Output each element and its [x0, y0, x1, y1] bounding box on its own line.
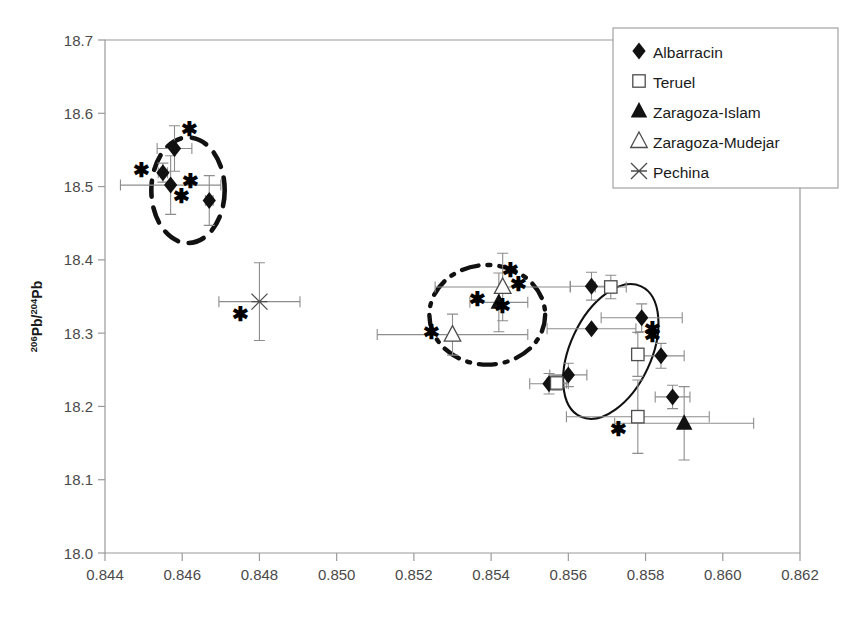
- x-tick-label: 0.850: [318, 566, 356, 583]
- legend: AlbarracinTeruelZaragoza-IslamZaragoza-M…: [613, 28, 838, 188]
- ylabel-sup-206: 206: [28, 336, 39, 352]
- y-tick-label: 18.7: [64, 32, 93, 49]
- marker-filled-diamond: [585, 320, 598, 337]
- star-annotation: ✱: [494, 295, 511, 317]
- marker-open-square: [633, 75, 645, 87]
- ylabel-sup-204: 204: [28, 298, 39, 315]
- legend-item-label: Zaragoza-Islam: [653, 104, 761, 121]
- marker-open-triangle: [444, 326, 461, 341]
- star-annotation: ✱: [133, 159, 150, 181]
- y-tick-label: 18.2: [64, 398, 93, 415]
- data-marker-layer: [156, 140, 692, 430]
- marker-open-square: [551, 377, 563, 389]
- cluster-ellipse-zaragoza-group: [429, 265, 545, 365]
- y-tick-label: 18.4: [64, 251, 93, 268]
- legend-item-label: Albarracin: [653, 44, 723, 61]
- star-annotation: ✱: [610, 418, 627, 440]
- marker-open-square: [632, 410, 644, 422]
- x-tick-label: 0.858: [627, 566, 665, 583]
- x-tick-label: 0.860: [704, 566, 742, 583]
- marker-filled-diamond: [203, 192, 216, 209]
- star-annotation: ✱: [182, 170, 199, 192]
- star-annotation: ✱: [423, 321, 440, 343]
- x-tick-label: 0.846: [163, 566, 201, 583]
- y-axis-title-text: 206Pb/204Pb: [28, 281, 46, 352]
- marker-filled-diamond: [654, 347, 667, 364]
- marker-filled-diamond: [666, 388, 679, 405]
- plot-canvas: 18.018.118.218.318.418.518.618.70.8440.8…: [0, 0, 854, 623]
- y-axis-title-group: 206Pb/204Pb: [28, 281, 46, 352]
- star-annotation: ✱: [502, 259, 519, 281]
- x-tick-label: 0.862: [781, 566, 819, 583]
- y-tick-label: 18.1: [64, 471, 93, 488]
- marker-open-square: [605, 281, 617, 293]
- ylabel-mid: Pb/: [29, 314, 45, 336]
- marker-filled-diamond: [156, 164, 169, 181]
- x-tick-label: 0.848: [241, 566, 279, 583]
- star-annotation: ✱: [181, 118, 198, 140]
- y-tick-label: 18.6: [64, 105, 93, 122]
- legend-item-label: Teruel: [653, 74, 695, 91]
- x-tick-label: 0.854: [472, 566, 510, 583]
- scatter-plot-figure: 18.018.118.218.318.418.518.618.70.8440.8…: [0, 0, 854, 623]
- y-tick-label: 18.5: [64, 178, 93, 195]
- y-tick-label: 18.0: [64, 545, 93, 562]
- cluster-ellipse-layer: [151, 137, 678, 433]
- legend-item-zaragoza-mudejar[interactable]: Zaragoza-Mudejar: [631, 132, 780, 151]
- x-tick-label: 0.852: [395, 566, 433, 583]
- y-axis-title: 206Pb/204Pb: [28, 281, 46, 352]
- ylabel-tail: Pb: [29, 281, 45, 299]
- star-annotation: ✱: [469, 288, 486, 310]
- y-tick-label: 18.3: [64, 325, 93, 342]
- legend-item-label: Zaragoza-Mudejar: [653, 134, 780, 151]
- marker-filled-diamond: [585, 278, 598, 295]
- legend-item-label: Pechina: [653, 164, 709, 181]
- x-tick-label: 0.844: [86, 566, 124, 583]
- star-annotation: ✱: [232, 303, 249, 325]
- marker-open-square: [632, 348, 644, 360]
- star-annotation: ✱: [644, 324, 661, 346]
- star-annotation-layer: ✱✱✱✱✱✱✱✱✱✱✱✱✱: [133, 118, 661, 439]
- x-tick-label: 0.856: [550, 566, 588, 583]
